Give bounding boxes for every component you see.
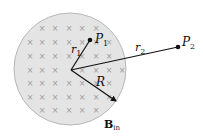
field-x-mark: ×	[52, 52, 59, 61]
field-x-mark: ×	[52, 79, 59, 88]
field-x-mark: ×	[39, 66, 46, 75]
point-p1-dot	[88, 38, 93, 43]
field-x-mark: ×	[79, 24, 86, 33]
field-x-mark: ×	[27, 52, 34, 61]
label-r2: r2	[135, 41, 145, 56]
field-x-mark: ×	[106, 66, 113, 75]
field-x-mark: ×	[66, 79, 73, 88]
field-x-mark: ×	[93, 106, 100, 115]
label-p2: P2	[181, 35, 195, 51]
field-x-mark: ×	[27, 79, 34, 88]
field-x-mark: ×	[93, 66, 100, 75]
field-x-mark: ×	[27, 66, 34, 75]
field-x-mark: ×	[52, 24, 59, 33]
field-x-mark: ×	[93, 93, 100, 102]
field-x-mark: ×	[66, 106, 73, 115]
field-x-mark: ×	[27, 38, 34, 47]
field-x-mark: ×	[106, 52, 113, 61]
field-x-mark: ×	[39, 79, 46, 88]
field-x-mark: ×	[39, 93, 46, 102]
field-x-mark: ×	[52, 106, 59, 115]
field-x-mark: ×	[52, 66, 59, 75]
point-p2-dot	[176, 45, 181, 50]
label-b-in: Bin	[104, 118, 121, 132]
field-x-mark: ×	[79, 93, 86, 102]
field-x-mark: ×	[52, 93, 59, 102]
field-x-mark: ×	[79, 79, 86, 88]
field-x-mark: ×	[79, 38, 86, 47]
field-x-mark: ×	[119, 66, 126, 75]
field-x-mark: ×	[106, 79, 113, 88]
field-x-mark: ×	[39, 38, 46, 47]
label-R: R	[95, 75, 105, 89]
field-x-mark: ×	[52, 38, 59, 47]
field-x-mark: ×	[66, 24, 73, 33]
diagram-canvas: ××××××××××××××××××××××××××××××××××××××××…	[0, 0, 203, 136]
field-x-mark: ×	[66, 93, 73, 102]
field-x-mark: ×	[79, 106, 86, 115]
field-x-mark: ×	[93, 52, 100, 61]
field-x-mark: ×	[27, 93, 34, 102]
field-x-mark: ×	[39, 106, 46, 115]
field-x-mark: ×	[39, 52, 46, 61]
field-x-mark: ×	[39, 24, 46, 33]
